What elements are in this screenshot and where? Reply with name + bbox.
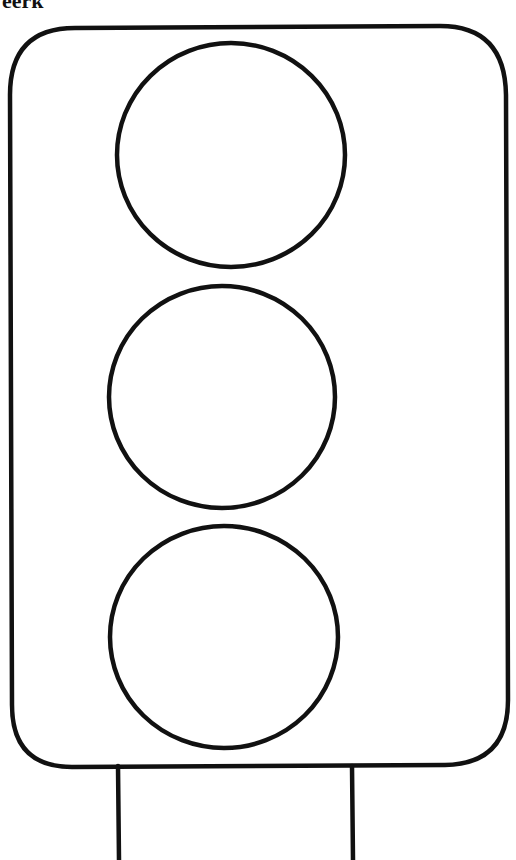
bottom-light [110, 526, 338, 748]
traffic-light-drawing [0, 0, 516, 860]
top-light [117, 43, 345, 267]
middle-light [109, 286, 335, 508]
traffic-light-housing [10, 26, 508, 767]
traffic-light-pole [118, 766, 353, 860]
